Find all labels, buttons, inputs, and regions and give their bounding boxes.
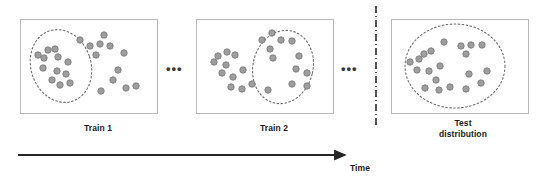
data-point xyxy=(45,47,51,53)
data-point xyxy=(77,37,83,43)
panel-frame xyxy=(197,20,334,114)
data-point xyxy=(479,42,485,48)
data-point xyxy=(293,66,299,72)
data-point xyxy=(436,87,442,93)
data-point xyxy=(239,86,245,92)
data-point xyxy=(67,80,73,86)
panel-test-distribution xyxy=(392,20,529,114)
data-point xyxy=(441,39,447,45)
data-point xyxy=(416,56,422,62)
data-point xyxy=(97,41,103,47)
distribution-shift-diagram: Train 1 Train 2 Test distribution ••• ••… xyxy=(0,0,544,186)
data-point xyxy=(230,74,236,80)
data-point xyxy=(289,38,295,44)
time-axis-label: Time xyxy=(300,163,370,173)
data-point xyxy=(304,70,310,76)
panel-frame xyxy=(392,20,529,114)
data-point xyxy=(463,86,469,92)
panels-group xyxy=(21,20,529,114)
ellipsis-between-train1-train2: ••• xyxy=(166,64,183,74)
data-point xyxy=(259,37,265,43)
data-point xyxy=(468,42,474,48)
data-point xyxy=(87,43,93,49)
data-point xyxy=(240,67,246,73)
data-point xyxy=(41,55,47,61)
data-point xyxy=(123,85,129,91)
data-point xyxy=(232,52,238,58)
ellipsis-between-train2-test: ••• xyxy=(341,64,358,74)
data-point xyxy=(93,52,99,58)
data-point xyxy=(426,68,432,74)
data-point xyxy=(414,67,420,73)
data-point xyxy=(304,83,310,89)
data-point xyxy=(463,51,469,57)
data-point xyxy=(478,80,484,86)
data-point xyxy=(224,49,230,55)
data-point xyxy=(296,53,302,59)
data-point xyxy=(101,32,107,38)
panel-train-1 xyxy=(21,20,158,114)
data-point xyxy=(269,30,275,36)
data-point xyxy=(265,87,271,93)
data-point xyxy=(215,53,221,59)
panel-train-2 xyxy=(197,20,334,114)
data-point xyxy=(57,82,63,88)
diagram-canvas xyxy=(0,0,544,186)
data-point xyxy=(63,71,69,77)
data-point xyxy=(289,81,295,87)
data-point xyxy=(267,46,273,52)
panel-label-train-2: Train 2 xyxy=(216,123,332,134)
data-point xyxy=(407,59,413,65)
data-point xyxy=(270,55,276,61)
data-point xyxy=(98,88,104,94)
data-point xyxy=(219,70,225,76)
data-point xyxy=(54,68,60,74)
data-point xyxy=(249,81,255,87)
data-point xyxy=(110,77,116,83)
data-point xyxy=(428,48,434,54)
data-point xyxy=(65,59,71,65)
data-point xyxy=(40,65,46,71)
data-point xyxy=(133,83,139,89)
data-point xyxy=(278,37,284,43)
data-point xyxy=(466,71,472,77)
data-point xyxy=(35,52,41,58)
panel-label-train-1: Train 1 xyxy=(40,123,156,134)
data-point xyxy=(55,54,61,60)
data-point xyxy=(49,77,55,83)
data-point xyxy=(433,77,439,83)
data-point xyxy=(107,43,113,49)
panel-label-test-distribution: Test distribution xyxy=(405,118,521,140)
data-point xyxy=(52,46,58,52)
data-point xyxy=(121,50,127,56)
data-point xyxy=(484,68,490,74)
data-point xyxy=(228,84,234,90)
data-point xyxy=(422,85,428,91)
data-point xyxy=(421,51,427,57)
data-point xyxy=(458,43,464,49)
data-point xyxy=(223,62,229,68)
data-point xyxy=(115,67,121,73)
data-point xyxy=(211,59,217,65)
data-point xyxy=(447,84,453,90)
data-point xyxy=(437,63,443,69)
